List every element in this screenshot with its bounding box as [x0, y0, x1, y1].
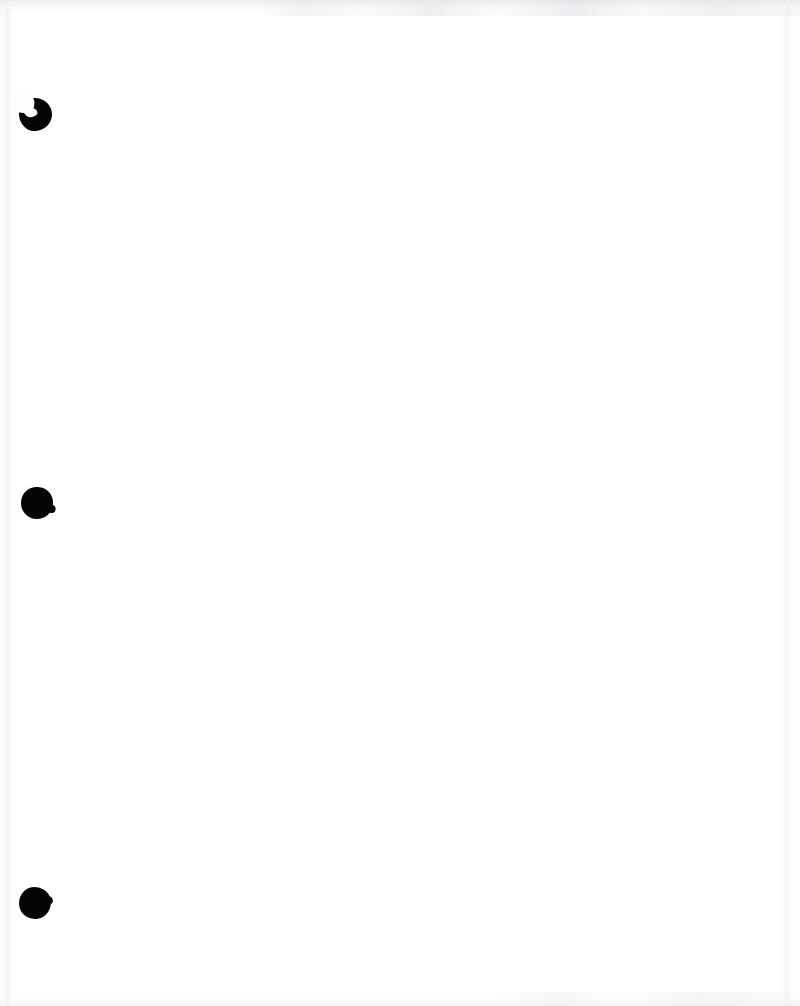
page-content-area [70, 40, 770, 970]
scanned-page [0, 0, 800, 1006]
